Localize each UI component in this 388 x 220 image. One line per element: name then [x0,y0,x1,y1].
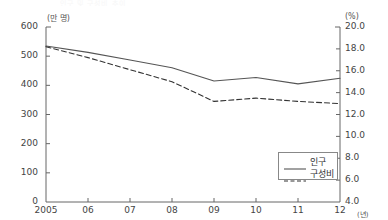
data-series-lines [46,46,340,104]
legend-item: 구성비 [284,168,331,180]
plot-area [0,0,388,220]
population-composition-chart: 인구 및 구성비 추이 (만 명) (%) 010020030040050060… [0,0,388,220]
legend-line-swatch-solid-icon [284,158,306,166]
legend-label: 인구 [310,156,326,168]
legend-item: 인구 [284,156,331,168]
chart-legend: 인구구성비 [278,152,338,180]
series-line-1 [46,47,340,104]
legend-line-swatch-dashed-icon [284,170,306,178]
legend-label: 구성비 [310,168,334,180]
series-line-0 [46,46,340,84]
